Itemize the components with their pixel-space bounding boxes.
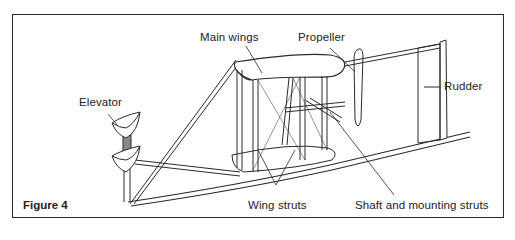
- elevator-bottom: [112, 146, 140, 172]
- label-shaft-and-mounting-struts: Shaft and mounting struts: [355, 199, 489, 211]
- label-main-wings: Main wings: [200, 31, 259, 43]
- upper-wing: [234, 54, 344, 80]
- lower-wing: [232, 146, 335, 172]
- label-rudder: Rudder: [444, 80, 482, 92]
- label-elevator: Elevator: [79, 96, 122, 108]
- label-propeller: Propeller: [298, 31, 345, 43]
- figure-caption: Figure 4: [23, 199, 68, 211]
- label-wing-struts: Wing struts: [248, 199, 307, 211]
